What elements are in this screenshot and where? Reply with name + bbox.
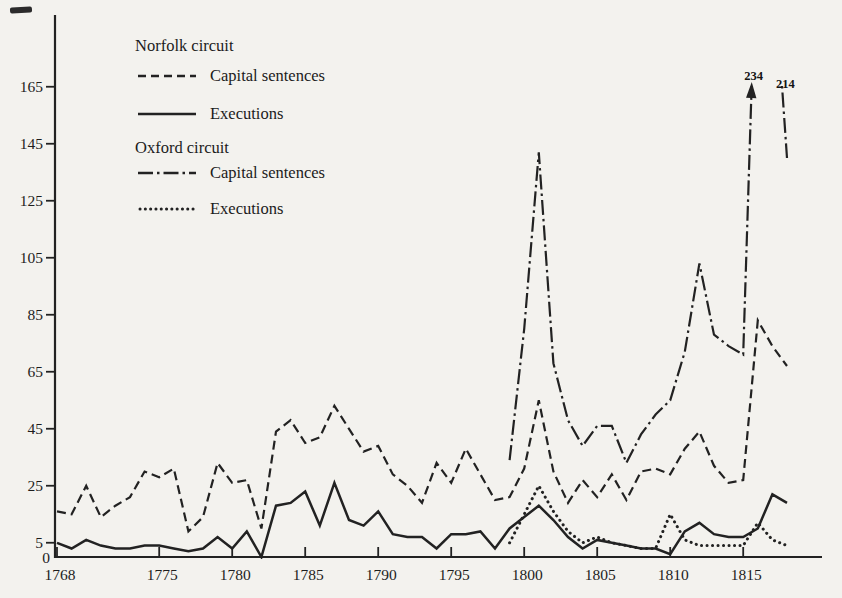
y-tick-label: 85 <box>28 306 44 323</box>
legend-item-label: Capital sentences <box>210 66 325 86</box>
y-tick-label: 65 <box>28 363 44 380</box>
y-tick-label: 5 <box>35 534 43 551</box>
x-tick-label: 1800 <box>512 566 543 583</box>
dashed-line-sample-icon <box>138 72 196 80</box>
legend-oxford-title: Oxford circuit <box>135 138 229 158</box>
offscale-annotation: 234 <box>744 69 764 83</box>
legend-norfolk-title: Norfolk circuit <box>135 36 234 56</box>
legend-item-oxford-executions: Executions <box>138 199 283 219</box>
legend-item-oxford-sentences: Capital sentences <box>138 163 325 183</box>
legend-item-label: Executions <box>210 104 283 124</box>
x-tick-label: 1780 <box>220 566 251 583</box>
legend-item-norfolk-executions: Executions <box>138 104 283 124</box>
offscale-annotation: 214 <box>776 77 796 91</box>
y-tick-label: 25 <box>28 477 44 494</box>
y-tick-label: 45 <box>28 420 44 437</box>
x-tick-label: 1795 <box>439 566 470 583</box>
x-tick-label: 1805 <box>585 566 616 583</box>
dotted-line-sample-icon <box>138 205 196 213</box>
offscale-arrow <box>746 82 756 98</box>
chart-figure: 0525456585105125145165176817751780178517… <box>0 0 842 598</box>
dash-dot-line-sample-icon <box>138 169 196 177</box>
chart-legend: Norfolk circuit Capital sentences Execut… <box>0 0 420 230</box>
y-tick-label: 105 <box>20 249 44 266</box>
x-tick-label: 1775 <box>147 566 178 583</box>
x-tick-label: 1768 <box>45 566 76 583</box>
x-tick-label: 1785 <box>293 566 324 583</box>
scan-artifact-mark <box>10 6 32 13</box>
x-tick-label: 1810 <box>658 566 689 583</box>
solid-line-sample-icon <box>138 110 196 118</box>
legend-item-label: Capital sentences <box>210 163 325 183</box>
series-norfolk_sentences <box>57 320 787 531</box>
series-norfolk_executions <box>57 483 787 557</box>
legend-item-norfolk-sentences: Capital sentences <box>138 66 325 86</box>
y-tick-label: 0 <box>42 549 50 566</box>
x-tick-label: 1790 <box>366 566 397 583</box>
x-tick-label: 1815 <box>731 566 762 583</box>
legend-item-label: Executions <box>210 199 283 219</box>
